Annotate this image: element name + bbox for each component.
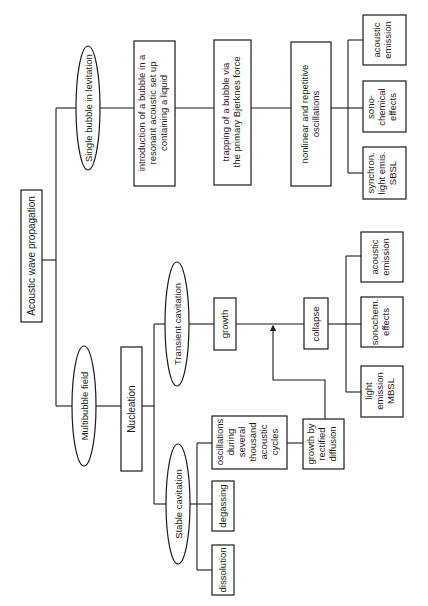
svg-text:emission: emission [380,238,391,276]
step-introduction: introduction of a bubble in a resonant a… [134,41,175,186]
cavitation-diagram: Acoustic wave propagation Single bubble … [0,0,428,606]
root-node: Acoustic wave propagation [21,190,42,322]
svg-text:oscillations: oscillations [214,419,225,466]
root-label: Acoustic wave propagation [26,196,37,316]
svg-text:acoustic: acoustic [371,22,382,57]
svg-text:growth: growth [219,310,230,339]
svg-text:acoustic: acoustic [369,239,380,274]
svg-text:the primary Bjerknes force: the primary Bjerknes force [231,57,242,168]
svg-text:several: several [236,427,247,458]
mb-effect-sonochem: sonochem. effects [361,297,403,347]
svg-text:synchron.: synchron. [365,152,376,193]
svg-text:oscillations: oscillations [310,91,321,138]
step-nonlinear-oscillations: nonlinear and repetitive oscillations [291,42,331,186]
svg-text:degassing: degassing [217,484,228,527]
svg-text:trapping of a bubble via: trapping of a bubble via [220,62,231,161]
svg-text:diffusion: diffusion [327,426,338,461]
svg-text:emission: emission [382,21,393,59]
svg-text:Nucleation: Nucleation [126,385,137,432]
svg-text:effects: effects [387,93,398,121]
dissolution-node: dissolution [212,545,234,595]
single-bubble-label: Single bubble in levitation [83,54,94,162]
oscillations-node: oscillations during several thousand aco… [212,416,287,469]
svg-text:Transient cavitation: Transient cavitation [172,283,183,365]
multibubble-node: Multibubble field [72,346,96,466]
svg-text:nonlinear and repetitive: nonlinear and repetitive [299,65,310,164]
transient-cavitation-node: Transient cavitation [165,262,189,386]
sb-effect-sbsl: synchron. light emis. SBSL [363,147,406,199]
svg-text:chemical: chemical [376,88,387,126]
mb-effect-acoustic-emission: acoustic emission [361,232,403,282]
svg-text:growth by: growth by [305,423,316,464]
svg-text:effects: effects [380,308,391,336]
svg-text:thousand: thousand [247,422,258,461]
svg-text:Stable cavitation: Stable cavitation [173,469,184,539]
single-bubble-node: Single bubble in levitation [76,46,100,170]
rectified-diffusion-node: growth by rectified diffusion [303,419,344,469]
collapse-node: collapse [304,298,328,349]
growth-node: growth [214,298,236,350]
sb-effect-acoustic-emission: acoustic emission [363,15,406,65]
svg-text:SBSL: SBSL [387,161,398,185]
degassing-node: degassing [212,481,234,531]
step-trapping: trapping of a bubble via the primary Bje… [214,40,251,185]
svg-text:light: light [363,382,374,400]
svg-text:rectified: rectified [316,427,327,460]
svg-text:during: during [225,429,236,455]
mb-effect-mbsl: light emission MBSL [361,366,403,417]
svg-text:emission: emission [374,372,385,410]
svg-text:sonochem.: sonochem. [369,299,380,345]
svg-text:light emis.: light emis. [376,152,387,195]
stable-cavitation-node: Stable cavitation [166,444,190,564]
svg-text:cycles: cycles [269,429,280,456]
svg-text:resonant acoustic set up: resonant acoustic set up [147,62,158,165]
svg-text:collapse: collapse [310,307,321,342]
multibubble-label: Multibubble field [79,372,90,441]
svg-text:introduction of a bubble in a: introduction of a bubble in a [136,54,147,171]
svg-text:MBSL: MBSL [385,378,396,404]
svg-text:acoustic: acoustic [258,424,269,459]
svg-text:containing a liquid: containing a liquid [158,75,169,151]
nucleation-node: Nucleation [121,347,142,471]
sb-effect-sonochemical: sono- chemical effects [363,81,406,132]
svg-text:sono-: sono- [365,95,376,119]
svg-text:dissolution: dissolution [217,548,228,593]
